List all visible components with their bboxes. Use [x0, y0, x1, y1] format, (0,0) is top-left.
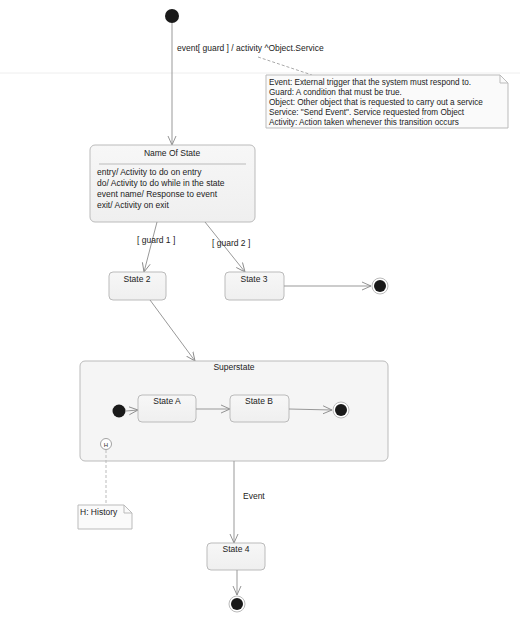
- note-line-object: Object: Other object that is requested t…: [269, 98, 483, 107]
- state-a[interactable]: State A: [138, 395, 196, 422]
- state-3[interactable]: State 3: [225, 272, 284, 300]
- legend-note: Event: External trigger that the system …: [266, 75, 508, 128]
- superstate-title: Superstate: [213, 362, 254, 372]
- history-note: H: History: [78, 505, 132, 529]
- superstate-initial-state[interactable]: [113, 405, 126, 418]
- superstate-final-state[interactable]: [333, 402, 349, 418]
- state-b[interactable]: State B: [230, 395, 289, 422]
- note-line-guard: Guard: A condition that must be true.: [269, 88, 402, 97]
- history-note-text: H: History: [80, 507, 118, 517]
- state-name-of-state[interactable]: Name Of State entry/ Activity to do on e…: [90, 145, 255, 222]
- state-2[interactable]: State 2: [109, 272, 166, 300]
- activity-entry: entry/ Activity to do on entry: [97, 167, 202, 177]
- activity-event: event name/ Response to event: [97, 189, 218, 199]
- final-state-right[interactable]: [372, 278, 388, 294]
- transition-label: event[ guard ] / activity ^Object.Servic…: [177, 43, 324, 53]
- note-line-activity: Activity: Action taken whenever this tra…: [269, 118, 459, 127]
- transition-to-state2[interactable]: [144, 222, 157, 272]
- state2-title: State 2: [124, 274, 151, 284]
- state3-title: State 3: [241, 274, 268, 284]
- note-line-service: Service: "Send Event". Service requested…: [269, 108, 465, 117]
- history-symbol: H: [104, 442, 108, 448]
- state-diagram-canvas: event[ guard ] / activity ^Object.Servic…: [0, 0, 520, 622]
- activity-exit: exit/ Activity on exit: [97, 200, 169, 210]
- state-b-title: State B: [245, 396, 273, 406]
- state-4[interactable]: State 4: [207, 543, 265, 570]
- state4-title: State 4: [223, 544, 250, 554]
- initial-state[interactable]: [165, 9, 179, 23]
- event-label: Event: [243, 491, 265, 501]
- transition-state2-to-superstate[interactable]: [150, 300, 195, 361]
- guard2-label: [ guard 2 ]: [212, 238, 250, 248]
- activity-do: do/ Activity to do while in the state: [97, 178, 225, 188]
- state-title: Name Of State: [144, 148, 200, 158]
- state-a-title: State A: [153, 396, 181, 406]
- history-state[interactable]: H: [101, 439, 112, 450]
- note-line-event: Event: External trigger that the system …: [269, 78, 471, 87]
- final-state-bottom[interactable]: [229, 596, 245, 612]
- guard1-label: [ guard 1 ]: [137, 235, 175, 245]
- note-connector: [258, 57, 312, 75]
